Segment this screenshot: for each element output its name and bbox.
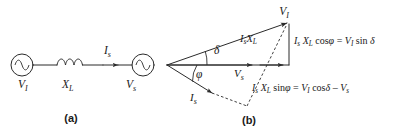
label-angle-delta: δ bbox=[214, 44, 220, 56]
panel-a-circuit: VI XL Is Vs (a) bbox=[11, 44, 154, 124]
panel-b-phasor: VI δ φ IsXL Vs Is Is XL cosφ = VI sin δ bbox=[167, 5, 375, 126]
ac-source-right-icon bbox=[132, 54, 154, 76]
figure-canvas: VI XL Is Vs (a) bbox=[0, 0, 395, 132]
caption-panel-a: (a) bbox=[64, 112, 78, 124]
equation-diagonal-component: Is XL sinφ = VI cosδ – Vs bbox=[251, 82, 349, 95]
label-is-current: Is bbox=[103, 44, 111, 59]
label-is-phasor: Is bbox=[189, 91, 197, 106]
caption-panel-b: (b) bbox=[242, 114, 256, 126]
dashed-is-extension bbox=[212, 93, 247, 106]
phasor-vi-arrow bbox=[167, 23, 287, 65]
label-vi-phasor: VI bbox=[279, 5, 289, 20]
angle-arc-delta bbox=[205, 51, 207, 65]
label-isxl-phasor: IsXL bbox=[239, 33, 257, 46]
equation-vertical-component: Is XL cosφ = VI sin δ bbox=[293, 35, 375, 48]
figure-container: VI XL Is Vs (a) bbox=[0, 0, 395, 132]
label-vs-source: Vs bbox=[126, 78, 136, 93]
label-vs-phasor: Vs bbox=[234, 67, 244, 82]
label-angle-phi: φ bbox=[196, 68, 203, 81]
inductor-coil-icon bbox=[57, 59, 83, 65]
label-xl-inductor: XL bbox=[61, 78, 74, 93]
phasor-is-arrow bbox=[167, 65, 212, 93]
ac-source-left-icon bbox=[11, 54, 33, 76]
label-vi-source: VI bbox=[18, 78, 28, 93]
